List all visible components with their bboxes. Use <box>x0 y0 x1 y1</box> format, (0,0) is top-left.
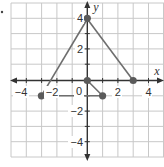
y-tick-label: −4 <box>70 136 83 148</box>
x-tick-label: −4 <box>15 86 28 98</box>
point-m3-m1 <box>38 92 45 99</box>
y-axis-label: y <box>92 0 99 14</box>
coordinate-plane: −4 −2 0 2 4 4 2 −2 −4 x y <box>0 0 164 167</box>
point-0-4 <box>84 15 91 22</box>
segment-b <box>87 19 133 81</box>
x-axis-right-arrow <box>157 78 164 84</box>
origin-label: 0 <box>76 85 82 97</box>
x-tick-label: 2 <box>115 86 121 98</box>
y-tick-label: −2 <box>70 105 83 117</box>
y-axis-up-arrow <box>84 1 90 8</box>
y-tick-label: 4 <box>77 12 83 24</box>
x-tick-label: −2 <box>46 86 59 98</box>
y-tick-label: 2 <box>77 43 83 55</box>
x-tick-label: 4 <box>145 86 151 98</box>
point-1-m1 <box>99 92 106 99</box>
bullet-dot <box>1 11 3 13</box>
x-axis-label: x <box>153 64 160 78</box>
point-0-0 <box>84 77 91 84</box>
point-3-0 <box>130 77 137 84</box>
